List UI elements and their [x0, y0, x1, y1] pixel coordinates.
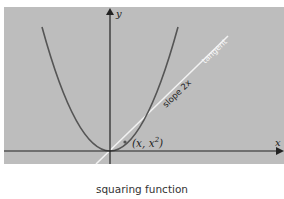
- x-axis-label: x: [275, 137, 281, 148]
- figure-caption: squaring function: [0, 183, 284, 195]
- y-axis-label: y: [115, 8, 122, 19]
- point-label: (x, x2): [132, 136, 163, 149]
- squaring-function-diagram: y x (x, x2) slope 2x tangent: [0, 0, 284, 199]
- tangency-point: [123, 140, 126, 143]
